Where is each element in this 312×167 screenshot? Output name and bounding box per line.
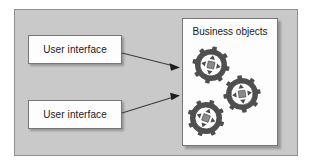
gear-object-icon[interactable]: [187, 99, 225, 137]
business-objects-title: Business objects: [183, 26, 277, 37]
gear-object-icon[interactable]: [223, 75, 261, 113]
user-interface-box-top-label: User interface: [43, 44, 107, 55]
business-objects-panel[interactable]: Business objects: [182, 18, 278, 146]
user-interface-box-bottom-label: User interface: [43, 109, 107, 120]
diagram-canvas: User interface User interface Business o…: [0, 0, 312, 167]
user-interface-box-bottom[interactable]: User interface: [28, 100, 122, 129]
user-interface-box-top[interactable]: User interface: [28, 35, 122, 64]
